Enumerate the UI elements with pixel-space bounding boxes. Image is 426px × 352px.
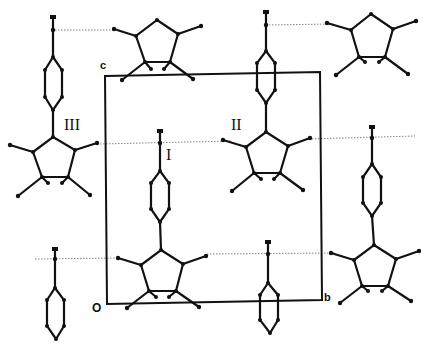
axis-label-c: c <box>100 60 106 71</box>
phenyl-fragment-bottom-center <box>258 240 280 335</box>
origin-label: O <box>92 302 101 314</box>
unit-cell-box <box>105 72 322 304</box>
molecule-III <box>8 15 99 198</box>
axis-label-b: b <box>324 292 331 303</box>
cp-fragment-top-right <box>325 12 418 77</box>
molecule-II <box>221 10 312 193</box>
molecule-I <box>116 129 208 310</box>
molecule-label-I: I <box>166 147 171 163</box>
cp-fragment-top-center <box>112 18 203 82</box>
crystal-packing-diagram <box>0 0 426 352</box>
molecule-right <box>329 125 421 305</box>
phenyl-fragment-bottom-left <box>45 247 66 341</box>
molecule-label-III: III <box>64 117 80 133</box>
molecule-label-II: II <box>231 117 242 133</box>
